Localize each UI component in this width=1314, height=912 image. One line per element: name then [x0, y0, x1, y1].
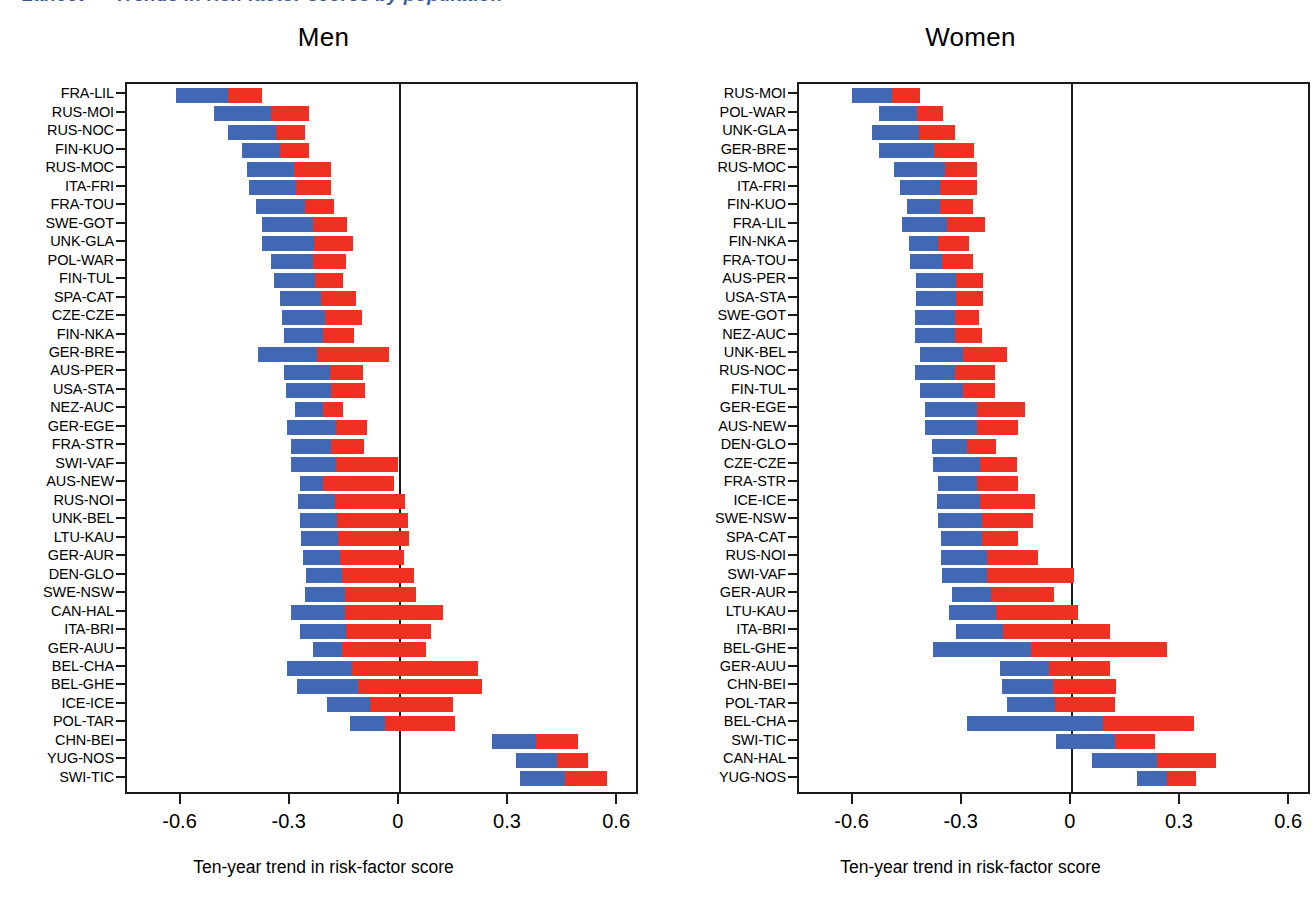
- bar-segment-blue: [1007, 697, 1055, 712]
- y-axis-tick: [116, 369, 125, 371]
- y-axis-label: BEL-GHE: [647, 641, 786, 655]
- y-axis-label: GER-EGE: [647, 400, 786, 414]
- y-axis-tick: [116, 591, 125, 593]
- stacked-bar: [350, 716, 456, 731]
- stacked-bar: [274, 273, 343, 288]
- y-axis-tick: [788, 776, 797, 778]
- y-axis-label: RUS-MOC: [647, 160, 786, 174]
- bar-segment-red: [991, 587, 1054, 602]
- y-axis-tick: [116, 702, 125, 704]
- bar-segment-red: [271, 106, 309, 121]
- bar-segment-red: [980, 494, 1035, 509]
- x-axis-tick: [506, 794, 508, 804]
- bar-segment-blue: [1137, 771, 1168, 786]
- y-axis-label: ITA-BRI: [647, 622, 786, 636]
- bar-segment-blue: [298, 494, 335, 509]
- y-axis-label: GER-BRE: [0, 345, 114, 359]
- bar-segment-blue: [301, 531, 338, 546]
- stacked-bar: [925, 402, 1026, 417]
- x-axis-tick: [615, 794, 617, 804]
- y-axis-tick: [116, 314, 125, 316]
- stacked-bar: [949, 605, 1079, 620]
- bar-segment-blue: [327, 697, 370, 712]
- y-axis-tick: [116, 203, 125, 205]
- y-axis-label: AUS-PER: [647, 271, 786, 285]
- bar-segment-red: [977, 476, 1018, 491]
- x-axis-tick-label: 0.6: [581, 810, 651, 833]
- y-axis-label: RUS-NOC: [0, 123, 114, 137]
- y-axis-label: SWE-NSW: [647, 511, 786, 525]
- bar-segment-blue: [242, 143, 280, 158]
- bar-segment-red: [987, 550, 1038, 565]
- bar-segment-red: [346, 624, 431, 639]
- stacked-bar: [247, 162, 331, 177]
- y-axis-tick: [116, 166, 125, 168]
- y-axis-label: CAN-HAL: [647, 751, 786, 765]
- x-axis-tick: [960, 794, 962, 804]
- y-axis-tick: [788, 647, 797, 649]
- bar-segment-red: [331, 383, 365, 398]
- bar-segment-blue: [280, 291, 321, 306]
- stacked-bar: [900, 180, 976, 195]
- bar-segment-red: [345, 605, 443, 620]
- y-axis-label: POL-WAR: [0, 253, 114, 267]
- y-axis-label: FIN-KUO: [647, 197, 786, 211]
- stacked-bar: [941, 531, 1018, 546]
- bar-segment-blue: [1056, 734, 1115, 749]
- stacked-bar: [952, 587, 1055, 602]
- y-axis-tick: [788, 129, 797, 131]
- stacked-bar: [280, 291, 356, 306]
- y-axis-tick: [788, 406, 797, 408]
- stacked-bar: [916, 273, 983, 288]
- y-axis-label: CHN-BEI: [647, 677, 786, 691]
- bar-segment-blue: [297, 679, 358, 694]
- bar-segment-red: [942, 254, 973, 269]
- y-axis-label: GER-AUR: [647, 585, 786, 599]
- y-axis-label: ITA-BRI: [0, 622, 114, 636]
- stacked-bar: [300, 624, 431, 639]
- y-axis-tick: [788, 185, 797, 187]
- y-axis-tick: [788, 314, 797, 316]
- y-axis-label: CHN-BEI: [0, 733, 114, 747]
- y-axis-label: CZE-CZE: [0, 308, 114, 322]
- bar-segment-blue: [287, 661, 352, 676]
- bar-segment-blue: [916, 291, 956, 306]
- bar-segment-blue: [262, 236, 314, 251]
- bar-segment-red: [1053, 679, 1116, 694]
- bar-segment-red: [917, 106, 942, 121]
- bar-segment-red: [314, 236, 352, 251]
- x-axis-tick-label: 0: [363, 810, 433, 833]
- y-axis-label: LTU-KAU: [0, 530, 114, 544]
- stacked-bar: [284, 365, 363, 380]
- stacked-bar: [915, 328, 982, 343]
- y-axis-tick: [788, 111, 797, 113]
- panel-women: Women RUS-MOIPOL-WARUNK-GLAGER-BRERUS-MO…: [647, 0, 1294, 912]
- stacked-bar: [933, 457, 1017, 472]
- bar-segment-blue: [516, 753, 557, 768]
- bar-segment-blue: [214, 106, 270, 121]
- stacked-bar: [879, 143, 974, 158]
- stacked-bar: [942, 568, 1074, 583]
- bar-segment-red: [337, 513, 408, 528]
- bar-segment-red: [317, 347, 389, 362]
- y-axis-label: USA-STA: [647, 290, 786, 304]
- bar-segment-red: [977, 420, 1018, 435]
- y-axis-tick: [788, 166, 797, 168]
- bar-segment-red: [982, 531, 1018, 546]
- bar-segment-blue: [228, 125, 276, 140]
- y-axis-label: NEZ-AUC: [0, 400, 114, 414]
- y-axis-tick: [116, 739, 125, 741]
- bar-segment-blue: [915, 310, 955, 325]
- x-axis-tick-label: 0.3: [472, 810, 542, 833]
- y-axis-label: AUS-NEW: [0, 474, 114, 488]
- y-axis-tick: [788, 702, 797, 704]
- y-axis-label: DEN-GLO: [0, 567, 114, 581]
- bar-segment-blue: [956, 624, 1003, 639]
- stacked-bar: [879, 106, 943, 121]
- bar-segment-red: [330, 365, 363, 380]
- bar-segment-blue: [313, 642, 342, 657]
- y-axis-tick: [788, 443, 797, 445]
- y-axis-label: SWI-TIC: [0, 770, 114, 784]
- y-axis-label: FRA-TOU: [647, 253, 786, 267]
- y-axis-tick: [788, 628, 797, 630]
